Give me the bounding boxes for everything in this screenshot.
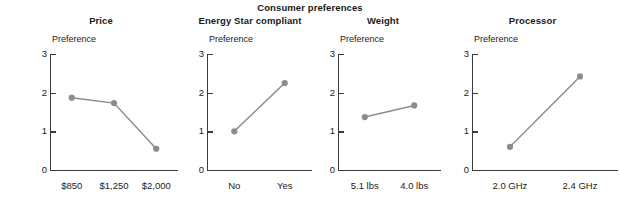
panel-price: PricePreference0123$850$1,250$2,000 [20,0,182,200]
panel-processor: ProcessorPreference01232.0 GHz2.4 GHz [450,0,615,200]
data-series [318,0,448,200]
series-line [510,76,580,146]
series-line [365,105,414,117]
panel-energy-star-compliant: Energy Star compliantPreference0123NoYes [185,0,315,200]
data-point [577,73,583,79]
consumer-preferences-figure: Consumer preferences PricePreference0123… [0,0,620,200]
data-point [507,144,513,150]
data-point [111,100,117,106]
data-point [282,80,288,86]
series-line [234,83,284,131]
data-point [362,114,368,120]
data-series [450,0,615,200]
data-series [185,0,315,200]
data-point [153,146,159,152]
data-point [69,95,75,101]
data-point [231,128,237,134]
data-series [20,0,182,200]
panel-weight: WeightPreference01235.1 lbs4.0 lbs [318,0,448,200]
data-point [411,102,417,108]
